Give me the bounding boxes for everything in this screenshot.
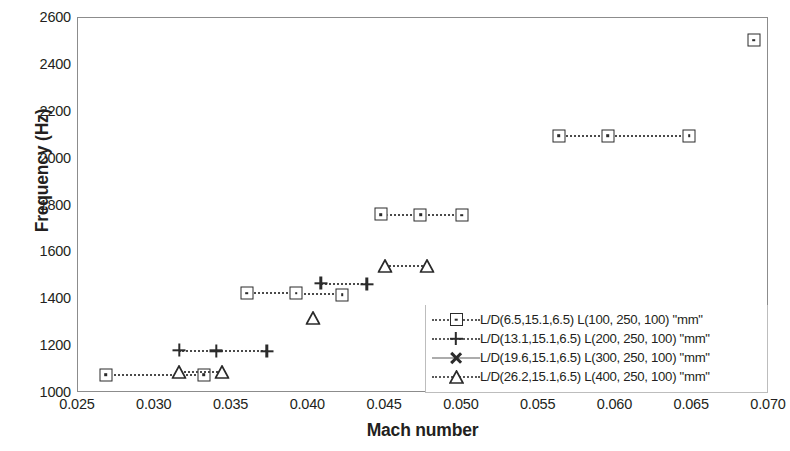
- y-tick-label: 1200: [11, 337, 71, 353]
- marker-center-dot: [752, 39, 755, 42]
- marker-square: [455, 209, 468, 222]
- x-tick-label: 0.040: [267, 396, 347, 412]
- y-tick-label: 1400: [11, 290, 71, 306]
- marker-center-dot: [606, 134, 609, 137]
- marker-square: [336, 288, 349, 301]
- marker-plus: [314, 277, 327, 290]
- marker-square: [414, 208, 427, 221]
- marker-star: [450, 351, 463, 364]
- marker-square: [240, 287, 253, 300]
- legend-label: L/D(26.2,15.1,6.5) L(400, 250, 100) "mm": [480, 369, 710, 384]
- marker-center-dot: [246, 292, 249, 295]
- legend-marker: [432, 350, 480, 365]
- marker-triangle: [305, 311, 320, 325]
- marker-plus: [173, 344, 186, 357]
- marker-center-dot: [419, 214, 422, 217]
- x-tick-label: 0.035: [191, 396, 271, 412]
- legend-marker: [432, 369, 480, 384]
- marker-plus: [260, 345, 273, 358]
- marker-center-dot: [341, 293, 344, 296]
- legend-item[interactable]: L/D(26.2,15.1,6.5) L(400, 250, 100) "mm": [432, 367, 761, 386]
- series-connector: [216, 350, 267, 352]
- series-connector: [608, 135, 689, 137]
- y-tick-label: 2200: [11, 103, 71, 119]
- x-tick-label: 0.055: [498, 396, 578, 412]
- marker-square: [450, 313, 463, 326]
- marker-center-dot: [455, 318, 458, 321]
- x-tick-label: 0.050: [421, 396, 501, 412]
- marker-square: [374, 208, 387, 221]
- y-tick-label: 2400: [11, 56, 71, 72]
- marker-center-dot: [461, 214, 464, 217]
- y-tick-label: 1600: [11, 243, 71, 259]
- marker-square: [683, 129, 696, 142]
- x-tick-label: 0.025: [37, 396, 117, 412]
- marker-square: [290, 287, 303, 300]
- legend-item[interactable]: L/D(6.5,15.1,6.5) L(100, 250, 100) "mm": [432, 310, 761, 329]
- y-tick-label: 2600: [11, 9, 71, 25]
- marker-square: [552, 129, 565, 142]
- marker-square: [747, 34, 760, 47]
- marker-plus: [360, 278, 373, 291]
- legend-marker: [432, 331, 480, 346]
- x-tick-label: 0.030: [114, 396, 194, 412]
- marker-center-dot: [104, 373, 107, 376]
- legend: L/D(6.5,15.1,6.5) L(100, 250, 100) "mm"L…: [425, 305, 768, 393]
- marker-plus: [450, 332, 463, 345]
- y-tick-label: 2000: [11, 150, 71, 166]
- marker-center-dot: [688, 134, 691, 137]
- marker-plus: [210, 344, 223, 357]
- y-tick-label: 1800: [11, 197, 71, 213]
- legend-item[interactable]: L/D(19.6,15.1,6.5) L(300, 250, 100) "mm": [432, 348, 761, 367]
- marker-triangle: [449, 370, 464, 384]
- y-axis-title: Frequency (Hz): [32, 41, 53, 301]
- marker-center-dot: [203, 373, 206, 376]
- marker-center-dot: [557, 134, 560, 137]
- marker-square: [601, 129, 614, 142]
- marker-triangle: [378, 259, 393, 273]
- legend-label: L/D(13.1,15.1,6.5) L(200, 250, 100) "mm": [480, 331, 710, 346]
- legend-label: L/D(6.5,15.1,6.5) L(100, 250, 100) "mm": [480, 312, 703, 327]
- marker-center-dot: [295, 292, 298, 295]
- marker-triangle: [419, 259, 434, 273]
- legend-marker: [432, 312, 480, 327]
- x-axis-title: Mach number: [77, 420, 768, 441]
- marker-triangle: [172, 365, 187, 379]
- legend-item[interactable]: L/D(13.1,15.1,6.5) L(200, 250, 100) "mm": [432, 329, 761, 348]
- x-tick-label: 0.070: [728, 396, 790, 412]
- legend-label: L/D(19.6,15.1,6.5) L(300, 250, 100) "mm": [480, 350, 710, 365]
- series-connector: [106, 374, 204, 376]
- x-tick-label: 0.045: [344, 396, 424, 412]
- x-tick-label: 0.065: [651, 396, 731, 412]
- x-tick-label: 0.060: [574, 396, 654, 412]
- marker-square: [99, 368, 112, 381]
- marker-triangle: [215, 365, 230, 379]
- marker-center-dot: [379, 213, 382, 216]
